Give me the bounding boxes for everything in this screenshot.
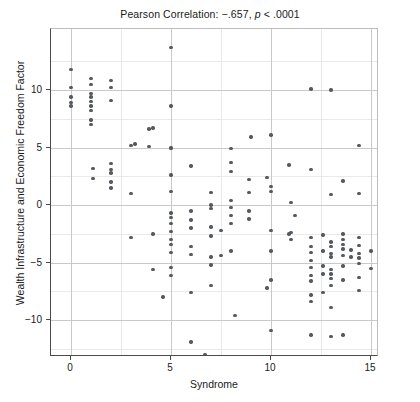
- data-point: [349, 255, 352, 258]
- data-point: [229, 214, 232, 217]
- data-point: [89, 118, 92, 121]
- data-point: [329, 245, 332, 248]
- data-point: [129, 144, 132, 147]
- data-point: [321, 264, 324, 267]
- data-point: [189, 340, 192, 343]
- data-point: [189, 164, 192, 167]
- data-point: [357, 256, 360, 259]
- data-point: [229, 170, 232, 173]
- data-point: [309, 293, 312, 296]
- gridline-horizontal-major: [51, 90, 377, 91]
- x-tick-label: 0: [67, 362, 73, 373]
- data-point: [169, 243, 172, 246]
- data-point: [169, 104, 172, 107]
- gridline-horizontal-major: [51, 148, 377, 149]
- data-point: [329, 284, 332, 287]
- data-point: [203, 353, 206, 356]
- data-point: [309, 333, 312, 336]
- data-point: [289, 238, 292, 241]
- data-point: [169, 222, 172, 225]
- data-point: [329, 272, 332, 275]
- data-point: [109, 171, 112, 174]
- data-point: [329, 268, 332, 271]
- data-point: [287, 163, 290, 166]
- gridline-horizontal-minor: [51, 61, 377, 62]
- data-point: [109, 180, 112, 183]
- data-point: [161, 295, 164, 298]
- data-point: [369, 249, 372, 252]
- x-tick-label: 15: [364, 362, 375, 373]
- data-point: [169, 173, 172, 176]
- data-point: [169, 274, 172, 277]
- data-point: [289, 201, 292, 204]
- data-point: [309, 87, 312, 90]
- data-point: [109, 99, 112, 102]
- data-point: [369, 267, 372, 270]
- data-point: [69, 68, 72, 71]
- x-axis-label: Syndrome: [50, 378, 378, 390]
- x-tick-label: 10: [264, 362, 275, 373]
- data-point: [341, 247, 344, 250]
- data-point: [309, 266, 312, 269]
- data-point: [229, 206, 232, 209]
- data-point: [341, 179, 344, 182]
- data-point: [341, 232, 344, 235]
- y-tick-mark: [46, 147, 50, 148]
- gridline-horizontal-minor: [51, 349, 377, 350]
- data-point: [229, 199, 232, 202]
- data-point: [269, 190, 272, 193]
- data-point: [91, 167, 94, 170]
- data-point: [89, 83, 92, 86]
- data-point: [349, 248, 352, 251]
- data-point: [209, 225, 212, 228]
- data-point: [357, 289, 360, 292]
- data-point: [269, 133, 272, 136]
- gridline-horizontal-minor: [51, 291, 377, 292]
- data-point: [169, 238, 172, 241]
- data-point: [247, 217, 250, 220]
- data-point: [321, 249, 324, 252]
- y-tick-mark: [46, 204, 50, 205]
- data-point: [147, 127, 150, 130]
- data-point: [269, 185, 272, 188]
- data-point: [269, 278, 272, 281]
- data-point: [109, 86, 112, 89]
- data-point: [89, 77, 92, 80]
- gridline-vertical-major: [71, 29, 72, 355]
- gridline-horizontal-major: [51, 205, 377, 206]
- data-point: [169, 230, 172, 233]
- data-point: [189, 291, 192, 294]
- x-tick-mark: [70, 356, 71, 360]
- x-tick-mark: [370, 356, 371, 360]
- y-tick-mark: [46, 89, 50, 90]
- data-point: [89, 95, 92, 98]
- data-point: [357, 252, 360, 255]
- data-point: [341, 333, 344, 336]
- data-point: [169, 46, 172, 49]
- data-point: [89, 100, 92, 103]
- data-point: [189, 209, 192, 212]
- data-point: [357, 276, 360, 279]
- data-point: [219, 254, 222, 257]
- gridline-horizontal-minor: [51, 234, 377, 235]
- data-point: [209, 234, 212, 237]
- data-point: [91, 177, 94, 180]
- data-point: [109, 79, 112, 82]
- data-point: [151, 126, 154, 129]
- data-point: [229, 222, 232, 225]
- data-point: [247, 209, 250, 212]
- data-point: [89, 104, 92, 107]
- y-axis-label: Wealth Infrastructure and Economic Freed…: [14, 18, 26, 348]
- data-point: [309, 259, 312, 262]
- data-point: [219, 229, 222, 232]
- data-point: [269, 329, 272, 332]
- data-point: [109, 162, 112, 165]
- data-point: [309, 274, 312, 277]
- gridline-horizontal-minor: [51, 176, 377, 177]
- gridline-horizontal-major: [51, 263, 377, 264]
- data-point: [247, 178, 250, 181]
- data-point: [357, 144, 360, 147]
- data-point: [341, 278, 344, 281]
- data-point: [229, 147, 232, 150]
- data-point: [329, 255, 332, 258]
